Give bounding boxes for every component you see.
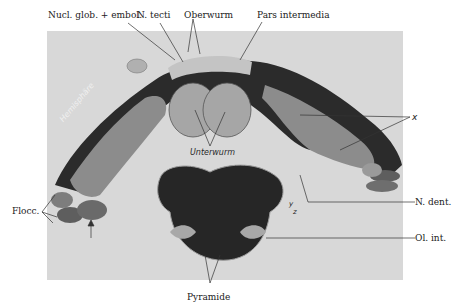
label-flocc: Flocc.	[12, 206, 39, 216]
label-nucl-glob-embol: Nucl. glob. + embol.	[48, 10, 142, 20]
vermis-right-lobe	[203, 83, 251, 137]
label-n-dent: N. dent.	[415, 197, 451, 207]
figure: Nucl. glob. + embol. N. tecti Oberwurm P…	[0, 0, 458, 306]
label-pyramide: Pyramide	[187, 292, 230, 302]
label-ol-int: Ol. int.	[415, 233, 446, 243]
label-oberwurm: Oberwurm	[184, 10, 233, 20]
label-unterwurm: Unterwurm	[190, 148, 235, 158]
label-x: x	[412, 112, 417, 122]
label-n-tecti: N. tecti	[137, 10, 171, 20]
meninges-flap	[127, 59, 147, 73]
label-pars-intermedia: Pars intermedia	[257, 10, 330, 20]
label-z: z	[293, 207, 297, 217]
